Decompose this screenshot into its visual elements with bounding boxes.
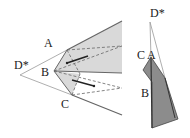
label-b-left: B: [41, 65, 49, 79]
label-d-star-right: D*: [150, 6, 165, 20]
diagram-canvas: D* A B C D* C A B: [0, 0, 190, 138]
right-figure: D* C A B: [137, 6, 178, 128]
left-figure: D* A B C: [14, 21, 122, 115]
diagram-svg: D* A B C D* C A B: [0, 0, 190, 138]
upper-shaded-region: [54, 21, 122, 73]
label-a-left: A: [44, 36, 53, 50]
label-c-right: C: [137, 48, 145, 62]
label-c-left: C: [61, 97, 69, 111]
lower-shaded-region: [54, 71, 80, 95]
label-a-right: A: [147, 48, 156, 62]
lower-edge: [72, 95, 122, 115]
label-d-star-left: D*: [14, 58, 29, 72]
label-b-right: B: [141, 86, 149, 100]
